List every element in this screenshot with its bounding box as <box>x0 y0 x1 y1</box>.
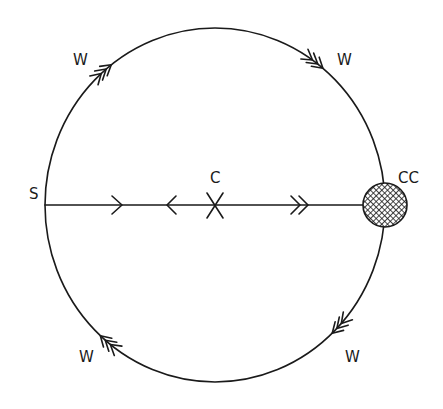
label-saddle-s: S <box>29 185 39 203</box>
label-w-bottom-right: W <box>345 348 360 366</box>
label-w-bottom-left: W <box>79 348 94 366</box>
label-center-c: C <box>210 169 220 187</box>
label-w-top-left: W <box>73 51 88 69</box>
attractor-region <box>363 183 407 227</box>
label-w-top-right: W <box>337 51 352 69</box>
phase-portrait-diagram: S C CC W W W W <box>0 0 443 409</box>
label-attractor-cc: CC <box>398 169 419 187</box>
